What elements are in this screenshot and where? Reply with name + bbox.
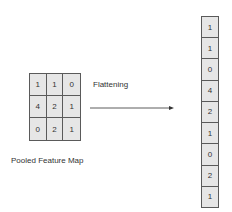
flattening-label: Flattening bbox=[93, 80, 128, 89]
vector-cell: 1 bbox=[202, 123, 218, 144]
arrow-right-icon bbox=[90, 106, 174, 110]
vector-cell: 2 bbox=[202, 102, 218, 123]
grid-cell: 1 bbox=[63, 118, 80, 140]
vector-cell: 1 bbox=[202, 38, 218, 59]
grid-cell: 0 bbox=[30, 118, 47, 140]
vector-cell: 0 bbox=[202, 59, 218, 80]
grid-cell: 4 bbox=[30, 96, 47, 118]
grid-cell: 2 bbox=[47, 96, 64, 118]
grid-cell: 2 bbox=[47, 118, 64, 140]
grid-cell: 0 bbox=[63, 74, 80, 96]
grid-cell: 1 bbox=[30, 74, 47, 96]
pooled-feature-map-grid: 1 1 0 4 2 1 0 2 1 bbox=[29, 73, 81, 141]
grid-cell: 1 bbox=[47, 74, 64, 96]
vector-cell: 2 bbox=[202, 166, 218, 187]
vector-cell: 1 bbox=[202, 17, 218, 38]
vector-cell: 4 bbox=[202, 81, 218, 102]
flattened-vector: 1 1 0 4 2 1 0 2 1 bbox=[201, 16, 219, 208]
pooled-feature-map-label: Pooled Feature Map bbox=[11, 156, 84, 165]
grid-cell: 1 bbox=[63, 96, 80, 118]
vector-cell: 1 bbox=[202, 187, 218, 207]
vector-cell: 0 bbox=[202, 144, 218, 165]
